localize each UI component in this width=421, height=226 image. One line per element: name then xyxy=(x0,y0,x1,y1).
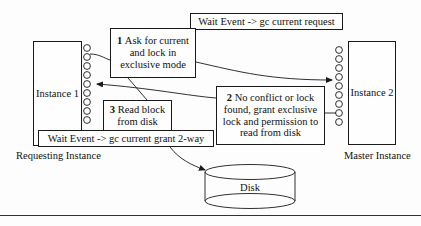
instance-1-label: Instance 1 xyxy=(36,88,79,100)
instance-2-box: Instance 2 xyxy=(348,41,396,145)
instance-1-caption: Requesting Instance xyxy=(16,150,101,161)
step-3-number: 3 xyxy=(110,104,118,115)
wait-event-bottom-box: Wait Event -> gc current grant 2-way xyxy=(38,130,214,147)
wait-event-top-box: Wait Event -> gc current request xyxy=(190,13,343,30)
step-2-number: 2 xyxy=(227,92,235,103)
step-3-line-2: from disk xyxy=(117,116,158,127)
edge-step2-to-instance1 xyxy=(97,84,216,98)
step-2-line-4: read from disk xyxy=(240,127,301,138)
step-1-line-1: Ask for current xyxy=(125,35,189,46)
instance2-port-column xyxy=(336,47,343,126)
edge-step1-to-instance2 xyxy=(196,62,332,80)
step-2-line-2: found, grant exclusive xyxy=(224,104,318,115)
step-1-line-3: exclusive mode xyxy=(120,59,186,70)
step-1-line-2: and lock in xyxy=(130,47,177,58)
step-1-box: 1 Ask for current and lock in exclusive … xyxy=(110,28,196,78)
disk-label: Disk xyxy=(240,182,260,194)
instance-2-label: Instance 2 xyxy=(351,87,394,99)
step-3-content: 3 Read block from disk xyxy=(110,104,165,128)
edge-step1-from-instance1 xyxy=(90,54,110,60)
step-3-line-1: Read block xyxy=(118,104,166,115)
diagram-root: Wait Event -> gc current request 1 Ask f… xyxy=(0,0,421,226)
instance-2-caption: Master Instance xyxy=(344,150,411,161)
step-2-content: 2 No conflict or lock found, grant exclu… xyxy=(223,92,318,139)
wait-event-top-label: Wait Event -> gc current request xyxy=(198,16,335,28)
edge-step3-to-disk xyxy=(170,147,205,170)
instance1-port-column xyxy=(84,45,91,124)
step-2-box: 2 No conflict or lock found, grant exclu… xyxy=(216,86,325,145)
wait-event-bottom-label: Wait Event -> gc current grant 2-way xyxy=(48,133,205,145)
disk-label-wrap: Disk xyxy=(205,175,295,201)
step-1-content: 1 Ask for current and lock in exclusive … xyxy=(117,35,189,70)
step-1-number: 1 xyxy=(117,35,125,46)
step-2-line-1: No conflict or lock xyxy=(235,92,315,103)
step-2-line-3: lock and permission to xyxy=(223,116,318,127)
step-3-box: 3 Read block from disk xyxy=(103,100,172,131)
